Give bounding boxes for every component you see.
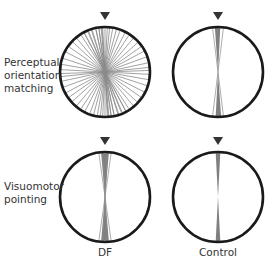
panel-r0-c0 — [60, 12, 150, 117]
row-label-line: Visuomotor — [4, 180, 64, 193]
column-label-control: Control — [178, 246, 258, 258]
row-label-line: Perceptual — [4, 56, 61, 69]
panel-r1-c1 — [173, 137, 263, 242]
response-fan-bottom — [216, 72, 221, 116]
panel-r0-c1 — [173, 12, 263, 117]
response-fan-bottom — [216, 197, 221, 241]
row-label-line: orientation — [4, 69, 61, 82]
row-label-visuomotor-pointing: Visuomotor pointing — [4, 180, 64, 206]
panel-r1-c0 — [60, 137, 150, 242]
target-orientation-marker-icon — [213, 12, 223, 20]
response-fan-top — [215, 28, 220, 72]
row-label-line: pointing — [4, 193, 64, 206]
target-orientation-marker-icon — [100, 12, 110, 20]
column-label-df: DF — [65, 246, 145, 258]
response-fan-top — [216, 153, 221, 197]
target-orientation-marker-icon — [100, 137, 110, 145]
row-label-line: matching — [4, 82, 61, 95]
row-label-perceptual-orientation-matching: Perceptual orientation matching — [4, 56, 61, 95]
diagram-canvas — [0, 0, 277, 266]
target-orientation-marker-icon — [213, 137, 223, 145]
